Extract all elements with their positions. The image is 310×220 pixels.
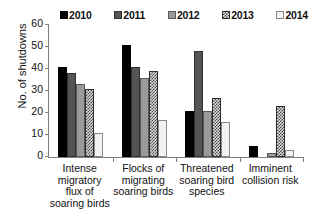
bar-group xyxy=(49,25,113,157)
y-axis-tick-label: 20 xyxy=(21,105,43,117)
bar-2013 xyxy=(149,71,158,157)
y-axis-tick: 10 xyxy=(19,134,49,135)
bar-2010 xyxy=(122,45,131,157)
bar-2012 xyxy=(267,153,276,157)
bar-2014 xyxy=(94,133,103,157)
x-axis-separator xyxy=(240,157,241,162)
legend-item-2014[interactable]: 2014 xyxy=(276,10,308,20)
y-axis-tick: 60 xyxy=(19,24,49,25)
legend-item-2012[interactable]: 2012 xyxy=(168,10,200,20)
legend-label: 2011 xyxy=(123,10,145,20)
y-axis-tick: 0 xyxy=(19,156,49,157)
y-axis-tick-label: 10 xyxy=(21,127,43,139)
bar-group xyxy=(240,25,304,157)
chart-legend: 20102011201220132014 xyxy=(60,8,308,22)
bar-2014 xyxy=(158,120,167,157)
legend-swatch-2014-icon xyxy=(276,11,284,19)
legend-swatch-2012-icon xyxy=(168,11,176,19)
bar-chart: 20102011201220132014 No. of shutdowns 01… xyxy=(0,0,310,220)
bar-2014 xyxy=(285,150,294,157)
legend-swatch-2011-icon xyxy=(114,11,122,19)
bar-2011 xyxy=(131,67,140,157)
legend-item-2013[interactable]: 2013 xyxy=(222,10,254,20)
bar-2014 xyxy=(221,122,230,157)
y-axis-tick-label: 50 xyxy=(21,39,43,51)
bar-2012 xyxy=(203,111,212,157)
legend-label: 2013 xyxy=(231,10,254,20)
y-axis-tick: 20 xyxy=(19,112,49,113)
x-axis-separator xyxy=(113,157,114,162)
bar-2012 xyxy=(140,78,149,157)
bar-2012 xyxy=(76,84,85,157)
x-axis-separator xyxy=(303,157,304,162)
y-axis-tick: 50 xyxy=(19,46,49,47)
bar-2011 xyxy=(67,73,76,157)
bar-group xyxy=(113,25,177,157)
y-axis-tick-label: 30 xyxy=(21,83,43,95)
bar-2010 xyxy=(58,67,67,157)
legend-label: 2012 xyxy=(177,10,200,20)
x-axis-separator xyxy=(176,157,177,162)
y-axis-tick: 30 xyxy=(19,90,49,91)
bar-2013 xyxy=(276,106,285,157)
bar-2013 xyxy=(212,98,221,157)
legend-swatch-2010-icon xyxy=(60,11,68,19)
x-axis-category-label: Imminentcollision risk xyxy=(233,163,309,186)
bar-2010 xyxy=(249,146,258,157)
bar-2010 xyxy=(185,111,194,157)
y-axis-tick: 40 xyxy=(19,68,49,69)
legend-item-2010[interactable]: 2010 xyxy=(60,10,92,20)
plot-area: 0102030405060 xyxy=(48,25,303,158)
legend-label: 2010 xyxy=(69,10,92,20)
legend-label: 2014 xyxy=(285,10,308,20)
y-axis-tick-label: 40 xyxy=(21,61,43,73)
y-axis-tick-label: 0 xyxy=(21,149,43,161)
legend-item-2011[interactable]: 2011 xyxy=(114,10,145,20)
y-axis-tick-label: 60 xyxy=(21,17,43,29)
legend-swatch-2013-icon xyxy=(222,11,230,19)
bar-group xyxy=(176,25,240,157)
bar-2013 xyxy=(85,89,94,157)
bar-2011 xyxy=(194,51,203,157)
